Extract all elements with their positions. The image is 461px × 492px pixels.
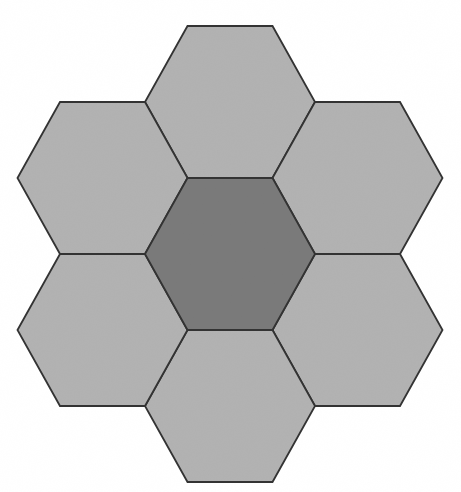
hexagon-figure: North hexagonNortheast hexagonSoutheast …: [0, 0, 461, 492]
hexagon-tiling-canvas: North hexagonNortheast hexagonSoutheast …: [0, 0, 461, 492]
